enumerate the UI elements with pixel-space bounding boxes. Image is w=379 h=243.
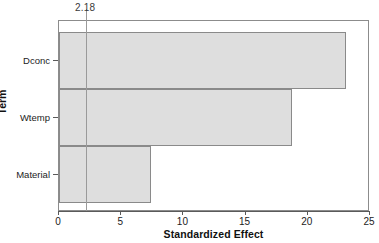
bar [59, 146, 151, 203]
x-axis-tick-label: 15 [239, 216, 250, 227]
y-axis-tick [53, 117, 58, 118]
y-axis-tick-label: Wtemp [20, 111, 50, 122]
x-axis-tick-label: 10 [177, 216, 188, 227]
x-axis-tick-label: 5 [117, 216, 123, 227]
reference-line-label: 2.18 [75, 2, 95, 13]
x-axis-tick-label: 0 [55, 216, 61, 227]
bar [59, 32, 346, 89]
reference-line [86, 9, 87, 212]
pareto-chart: DconcWtempMaterial Term 0510152025 Stand… [0, 0, 379, 243]
y-axis-title: Term [0, 90, 8, 115]
y-axis-tick [53, 174, 58, 175]
x-axis-title: Standardized Effect [58, 228, 369, 240]
x-axis-tick [245, 211, 246, 215]
x-axis-tick-label: 20 [301, 216, 312, 227]
y-axis-tick-label: Dconc [23, 54, 50, 65]
x-axis-tick [369, 211, 370, 215]
y-axis-tick [53, 60, 58, 61]
bar [59, 89, 292, 146]
x-axis-tick [120, 211, 121, 215]
plot-area [58, 20, 369, 211]
x-axis-tick [58, 211, 59, 215]
x-axis-tick [307, 211, 308, 215]
x-axis-line [58, 211, 369, 212]
x-axis-tick [182, 211, 183, 215]
x-axis-tick-label: 25 [363, 216, 374, 227]
y-axis-tick-label: Material [16, 168, 50, 179]
